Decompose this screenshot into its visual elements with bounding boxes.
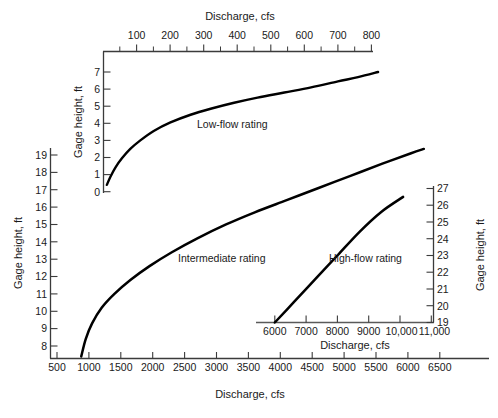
high-flow-y-tick-label: 19 bbox=[437, 316, 449, 328]
high-flow-y-tick-label: 26 bbox=[437, 199, 449, 211]
intermediate-curve-label: Intermediate rating bbox=[178, 252, 266, 264]
high-flow-y-axis-title: Gage height, ft bbox=[474, 219, 486, 291]
low-flow-x-tick-label: 300 bbox=[195, 29, 213, 41]
low-flow-y-axis-title: Gage height, ft bbox=[72, 86, 84, 158]
main-x-tick-label: 4000 bbox=[269, 361, 293, 373]
low-flow-x-tick-label: 400 bbox=[228, 29, 246, 41]
main-x-tick-label: 2000 bbox=[141, 361, 165, 373]
low-flow-x-tick-label: 600 bbox=[296, 29, 314, 41]
high-flow-x-axis-title: Discharge, cfs bbox=[320, 339, 390, 351]
main-x-axis-title: Discharge, cfs bbox=[215, 388, 285, 400]
low-flow-y-tick-label: 5 bbox=[94, 100, 100, 112]
main-x-tick-label: 3000 bbox=[205, 361, 229, 373]
low-flow-y-tick-label: 6 bbox=[94, 83, 100, 95]
low-flow-curve-label: Low-flow rating bbox=[197, 118, 268, 130]
main-y-tick-label: 17 bbox=[35, 184, 47, 196]
main-y-axis-title: Gage height, ft bbox=[12, 217, 24, 289]
high-flow-y-tick-label: 22 bbox=[437, 266, 449, 278]
low-flow-x-tick-label: 800 bbox=[363, 29, 381, 41]
low-flow-y-tick-label: 4 bbox=[94, 117, 100, 129]
chart-canvas: 100 200 300 400 500 600 700 800 Discharg… bbox=[0, 0, 498, 418]
main-y-tick-label: 13 bbox=[35, 253, 47, 265]
high-flow-y-tick-label: 25 bbox=[437, 216, 449, 228]
high-flow-y-tick-label: 24 bbox=[437, 233, 449, 245]
main-x-tick-label: 4500 bbox=[301, 361, 325, 373]
low-flow-x-tick-label: 200 bbox=[161, 29, 179, 41]
low-flow-y-tick-label: 1 bbox=[94, 168, 100, 180]
low-flow-y-tick-label: 2 bbox=[94, 151, 100, 163]
high-flow-curve-label: High-flow rating bbox=[329, 252, 402, 264]
main-y-tick-label: 14 bbox=[35, 236, 47, 248]
main-y-tick-label: 8 bbox=[41, 340, 47, 352]
main-y-tick-label: 12 bbox=[35, 270, 47, 282]
main-x-tick-label: 5500 bbox=[364, 361, 388, 373]
chart-background bbox=[0, 0, 498, 418]
main-y-tick-label: 11 bbox=[36, 288, 47, 300]
main-x-tick-label: 3500 bbox=[237, 361, 261, 373]
main-x-tick-label: 5000 bbox=[332, 361, 356, 373]
high-flow-y-tick-label: 27 bbox=[437, 182, 449, 194]
main-y-tick-label: 18 bbox=[35, 166, 47, 178]
low-flow-y-tick-label: 0 bbox=[94, 186, 100, 198]
high-flow-y-tick-label: 23 bbox=[437, 249, 449, 261]
rating-curve-figure: 100 200 300 400 500 600 700 800 Discharg… bbox=[0, 0, 498, 418]
low-flow-x-axis-title: Discharge, cfs bbox=[205, 10, 275, 22]
high-flow-x-tick-label: 7000 bbox=[294, 325, 318, 337]
main-y-tick-label: 15 bbox=[35, 218, 47, 230]
high-flow-x-tick-label: 6000 bbox=[263, 325, 287, 337]
low-flow-y-tick-label: 3 bbox=[94, 134, 100, 146]
main-y-tick-label: 16 bbox=[35, 201, 47, 213]
high-flow-x-tick-label: 10,000 bbox=[385, 325, 417, 337]
high-flow-y-tick-label: 20 bbox=[437, 300, 449, 312]
main-x-tick-label: 6500 bbox=[428, 361, 452, 373]
high-flow-y-tick-label: 21 bbox=[437, 283, 449, 295]
low-flow-y-tick-label: 7 bbox=[94, 66, 100, 78]
main-x-tick-label: 1000 bbox=[77, 361, 101, 373]
main-x-tick-label: 500 bbox=[48, 361, 66, 373]
main-x-tick-label: 2500 bbox=[173, 361, 197, 373]
main-y-tick-label: 10 bbox=[35, 305, 47, 317]
main-y-tick-label: 19 bbox=[35, 149, 47, 161]
high-flow-x-tick-label: 9000 bbox=[357, 325, 381, 337]
low-flow-x-tick-label: 500 bbox=[262, 29, 280, 41]
main-y-tick-label: 9 bbox=[41, 322, 47, 334]
main-x-tick-label: 1500 bbox=[109, 361, 133, 373]
low-flow-x-tick-label: 700 bbox=[329, 29, 347, 41]
high-flow-x-tick-label: 8000 bbox=[326, 325, 350, 337]
high-flow-y-tick-labels: 27 26 25 24 23 22 21 20 19 bbox=[437, 182, 449, 328]
main-x-tick-label: 6000 bbox=[396, 361, 420, 373]
low-flow-x-tick-label: 100 bbox=[128, 29, 146, 41]
